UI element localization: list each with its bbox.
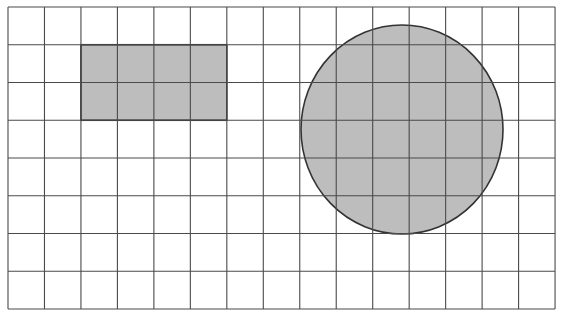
grid-diagram (0, 0, 562, 313)
shaded-circle (301, 25, 503, 234)
shapes-layer (81, 25, 503, 234)
